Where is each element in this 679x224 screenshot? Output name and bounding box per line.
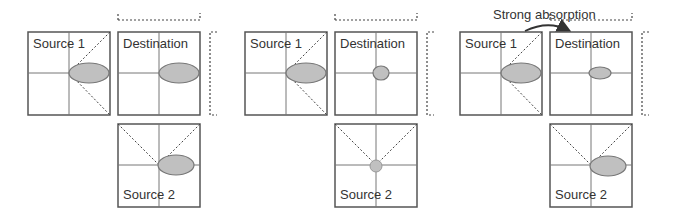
group-2: Source 1 Destination Source 2: [245, 13, 434, 207]
top-bracket: [335, 13, 417, 20]
source2-label: Source 2: [555, 187, 607, 202]
group-1: Source 1 Destination Source 2: [28, 13, 217, 207]
destination-label: Destination: [340, 36, 405, 51]
beam-lobe: [373, 66, 389, 80]
strong-absorption-label: Strong absorption: [493, 7, 596, 22]
source1-panel: Source 1: [460, 32, 542, 115]
beam-lobe: [589, 67, 611, 79]
group-3: Source 1 Destination Source 2 Strong abs…: [460, 7, 649, 207]
right-bracket: [642, 32, 649, 115]
source2-label: Source 2: [340, 187, 392, 202]
beam-lobe: [159, 63, 199, 83]
source2-panel: Source 2: [335, 124, 417, 207]
right-bracket: [427, 32, 434, 115]
diagram-canvas: Source 1 Destination Source 2: [0, 0, 679, 224]
source2-panel: Source 2: [550, 124, 632, 207]
beam-lobe: [590, 156, 626, 176]
beam-lobe: [69, 63, 109, 83]
right-bracket: [210, 32, 217, 115]
source1-panel: Source 1: [245, 32, 327, 115]
destination-label: Destination: [123, 36, 188, 51]
beam-lobe: [501, 63, 541, 83]
destination-label: Destination: [555, 36, 620, 51]
beam-lobe: [286, 63, 326, 83]
source1-label: Source 1: [465, 36, 517, 51]
source2-label: Source 2: [123, 187, 175, 202]
diagram: Source 1 Destination Source 2: [0, 0, 679, 224]
beam-lobe: [370, 160, 382, 172]
beam-lobe: [158, 155, 194, 175]
destination-panel: Destination: [335, 32, 417, 115]
destination-panel: Destination: [118, 32, 200, 115]
source1-label: Source 1: [33, 36, 85, 51]
source2-panel: Source 2: [118, 124, 200, 207]
absorption-arrow-icon: [525, 25, 568, 31]
top-bracket: [118, 13, 200, 20]
destination-panel: Destination: [550, 32, 632, 115]
source1-panel: Source 1: [28, 32, 110, 115]
source1-label: Source 1: [250, 36, 302, 51]
